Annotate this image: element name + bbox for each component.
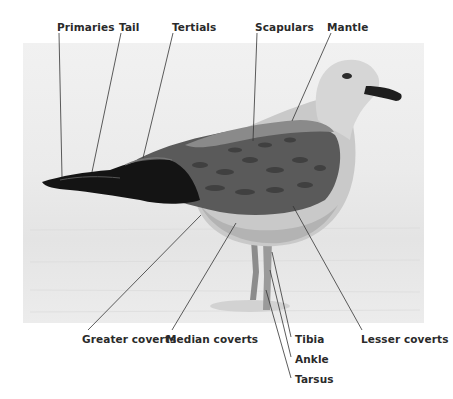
label-mantle: Mantle <box>327 21 368 33</box>
label-lesser-coverts: Lesser coverts <box>361 333 449 345</box>
label-median-coverts: Median coverts <box>166 333 258 345</box>
leader-primaries <box>59 33 62 177</box>
label-tarsus: Tarsus <box>295 373 334 385</box>
label-scapulars: Scapulars <box>255 21 314 33</box>
label-tertials: Tertials <box>172 21 216 33</box>
leader-tertials <box>143 33 173 158</box>
label-greater-coverts: Greater coverts <box>82 333 176 345</box>
leader-tibia <box>272 252 291 337</box>
leader-ankle <box>270 270 291 357</box>
label-tibia: Tibia <box>295 333 324 345</box>
gull-primaries-tail <box>42 159 200 203</box>
water-texture <box>30 228 420 312</box>
leader-greater-coverts <box>88 215 201 330</box>
leader-tail <box>92 33 121 172</box>
label-primaries: Primaries <box>57 21 115 33</box>
label-ankle: Ankle <box>295 353 329 365</box>
gull-eye <box>342 73 352 79</box>
leader-median-coverts <box>172 223 236 330</box>
label-tail: Tail <box>119 21 140 33</box>
gull-anatomy-diagram: Primaries Tail Tertials Scapulars Mantle… <box>0 0 453 399</box>
